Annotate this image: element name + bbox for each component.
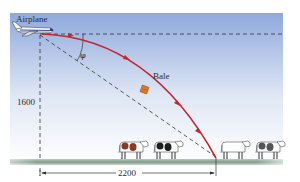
airplane-label: Airplane xyxy=(16,14,48,24)
distance-label: 2200 xyxy=(118,168,137,178)
projectile-diagram: φ Bale Airplane 1600 2200 xyxy=(0,0,300,182)
ground-fade xyxy=(10,159,283,165)
angle-label: φ xyxy=(80,51,86,60)
bale-label: Bale xyxy=(153,71,170,81)
height-label: 1600 xyxy=(17,97,36,107)
